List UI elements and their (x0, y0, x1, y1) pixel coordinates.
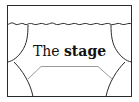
caption-bold: stage (64, 43, 106, 59)
stage-diagram: The stage (0, 0, 139, 102)
caption-plain: The (33, 43, 60, 59)
stage-caption: The stage (0, 43, 139, 59)
